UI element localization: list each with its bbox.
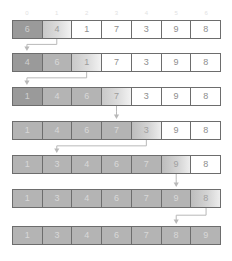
arrow-step4-to-step5-head <box>54 149 59 154</box>
index-label-6: 6 <box>191 9 221 18</box>
cell-4-6: 8 <box>191 156 220 173</box>
cell-1-4: 3 <box>132 54 162 71</box>
cell-2-3: 7 <box>102 88 132 105</box>
cell-3-6: 8 <box>191 122 220 139</box>
index-label-1: 1 <box>42 9 72 18</box>
cell-5-3: 6 <box>102 190 132 207</box>
cell-6-5: 8 <box>162 227 192 244</box>
cell-3-5: 9 <box>162 122 192 139</box>
cell-0-1: 4 <box>43 21 73 38</box>
cell-1-0: 4 <box>13 54 43 71</box>
cell-2-5: 9 <box>162 88 192 105</box>
cell-4-4: 7 <box>132 156 162 173</box>
arrow-step1-to-step2 <box>24 39 56 51</box>
cell-2-6: 8 <box>191 88 220 105</box>
cell-6-2: 4 <box>72 227 102 244</box>
arrow-step4-to-step5 <box>54 140 146 153</box>
cell-6-4: 7 <box>132 227 162 244</box>
cell-3-4: 3 <box>132 122 162 139</box>
cell-1-1: 6 <box>43 54 73 71</box>
cell-3-3: 7 <box>102 122 132 139</box>
index-label-3: 3 <box>102 9 132 18</box>
cell-1-2: 1 <box>72 54 102 71</box>
index-label-5: 5 <box>161 9 191 18</box>
array-row-step-2: 4617398 <box>12 53 221 72</box>
cell-0-6: 8 <box>191 21 220 38</box>
cell-1-5: 9 <box>162 54 192 71</box>
cell-3-0: 1 <box>13 122 43 139</box>
arrow-step2-to-step3 <box>24 72 86 85</box>
cell-0-0: 6 <box>13 21 43 38</box>
array-row-step-4: 1467398 <box>12 121 221 140</box>
cell-5-4: 7 <box>132 190 162 207</box>
cell-6-0: 1 <box>13 227 43 244</box>
cell-4-0: 1 <box>13 156 43 173</box>
cell-1-3: 7 <box>102 54 132 71</box>
array-row-step-6: 1346798 <box>12 189 221 208</box>
cell-4-1: 3 <box>43 156 73 173</box>
arrow-step6-to-step7 <box>174 208 206 224</box>
index-label-4: 4 <box>131 9 161 18</box>
index-header-row: 0123456 <box>12 9 221 18</box>
arrow-step3-to-step4 <box>114 106 119 119</box>
arrow-step2-to-step3-head <box>24 81 29 86</box>
insertion-sort-diagram: 0123456 64173984617398146739814673981346… <box>0 0 232 261</box>
cell-4-2: 4 <box>72 156 102 173</box>
arrow-step1-to-step2-head <box>24 47 29 52</box>
cell-4-5: 9 <box>162 156 192 173</box>
arrow-step6-to-step7-head <box>174 220 179 225</box>
cell-5-5: 9 <box>162 190 192 207</box>
cell-0-4: 3 <box>132 21 162 38</box>
array-row-step-1: 6417398 <box>12 20 221 39</box>
array-row-step-5: 1346798 <box>12 155 221 174</box>
cell-2-4: 3 <box>132 88 162 105</box>
cell-6-3: 6 <box>102 227 132 244</box>
cell-3-1: 4 <box>43 122 73 139</box>
cell-2-0: 1 <box>13 88 43 105</box>
cell-0-2: 1 <box>72 21 102 38</box>
cell-3-2: 6 <box>72 122 102 139</box>
cell-2-2: 6 <box>72 88 102 105</box>
index-label-2: 2 <box>72 9 102 18</box>
cell-6-1: 3 <box>43 227 73 244</box>
array-row-step-7: 1346789 <box>12 226 221 245</box>
cell-5-1: 3 <box>43 190 73 207</box>
cell-1-6: 8 <box>191 54 220 71</box>
cell-4-3: 6 <box>102 156 132 173</box>
arrow-step5-to-step6 <box>174 174 179 187</box>
cell-5-6: 8 <box>191 190 220 207</box>
index-label-0: 0 <box>12 9 42 18</box>
cell-5-0: 1 <box>13 190 43 207</box>
cell-0-3: 7 <box>102 21 132 38</box>
cell-6-6: 9 <box>191 227 220 244</box>
cell-0-5: 9 <box>162 21 192 38</box>
cell-2-1: 4 <box>43 88 73 105</box>
cell-5-2: 4 <box>72 190 102 207</box>
array-row-step-3: 1467398 <box>12 87 221 106</box>
arrow-step3-to-step4-head <box>114 115 119 120</box>
arrow-step5-to-step6-head <box>174 183 179 188</box>
